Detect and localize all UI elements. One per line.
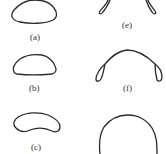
panel-label-c: (c) bbox=[31, 143, 41, 152]
shape-e-left-lobe bbox=[99, 0, 110, 14]
panel-label-b: (b) bbox=[29, 84, 40, 93]
shape-f bbox=[96, 50, 162, 81]
shape-a bbox=[12, 0, 57, 23]
figure-canvas bbox=[0, 0, 166, 154]
shape-b bbox=[13, 55, 56, 75]
shape-c bbox=[14, 113, 60, 132]
shape-e-right-lobe bbox=[146, 0, 156, 14]
shape-g bbox=[99, 115, 157, 154]
panel-label-a: (a) bbox=[30, 33, 40, 42]
panel-label-f: (f) bbox=[123, 84, 132, 93]
panel-label-e: (e) bbox=[122, 21, 132, 30]
